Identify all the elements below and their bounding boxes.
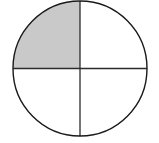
quadrant-upper-left <box>13 1 80 69</box>
quadrant-upper-right <box>80 1 147 69</box>
quadrant-lower-right <box>80 69 147 137</box>
figure-container <box>0 0 159 143</box>
fraction-circle-diagram <box>0 0 159 143</box>
quadrant-lower-left <box>13 69 80 137</box>
